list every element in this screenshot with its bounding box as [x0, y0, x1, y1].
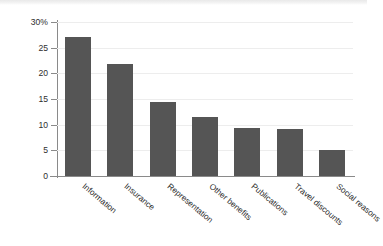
- bar-slot: [142, 22, 184, 176]
- x-axis-label: Information: [81, 181, 119, 215]
- bar-slot: [311, 22, 353, 176]
- bar-slot: [184, 22, 226, 176]
- bar[interactable]: [65, 37, 91, 176]
- bar-slot: [57, 22, 99, 176]
- y-tick-label: 20: [38, 68, 48, 78]
- y-tick-label: 0: [43, 171, 48, 181]
- bar[interactable]: [150, 102, 176, 176]
- y-tick-label: 30%: [31, 17, 48, 27]
- x-axis-label: Publications: [250, 181, 291, 217]
- bars-group: [57, 22, 353, 176]
- bar[interactable]: [192, 117, 218, 176]
- bar[interactable]: [234, 128, 260, 176]
- plot-area: 051015202530%: [57, 22, 353, 176]
- bar-slot: [268, 22, 310, 176]
- y-tick-label: 10: [38, 120, 48, 130]
- y-tick-mark: [51, 176, 57, 177]
- bar-slot: [99, 22, 141, 176]
- bar[interactable]: [319, 150, 345, 176]
- y-tick-label: 25: [38, 43, 48, 53]
- y-tick-label: 15: [38, 94, 48, 104]
- y-tick-label: 5: [43, 145, 48, 155]
- x-axis-label: Insurance: [123, 181, 157, 212]
- bar-slot: [226, 22, 268, 176]
- bar[interactable]: [277, 129, 303, 176]
- x-axis-line: [50, 176, 355, 177]
- bar[interactable]: [107, 64, 133, 176]
